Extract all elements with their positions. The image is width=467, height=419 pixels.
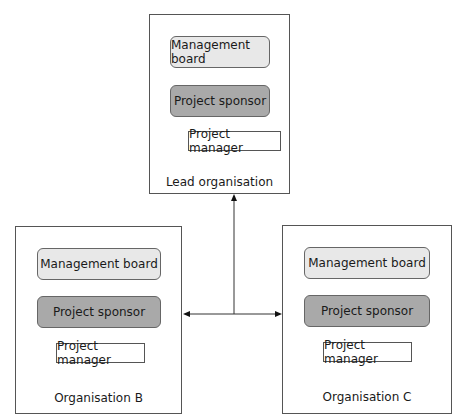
arrow-left-icon [183, 311, 190, 317]
connector-arrows [0, 0, 467, 419]
arrow-up-icon [231, 194, 237, 201]
arrow-right-icon [275, 311, 282, 317]
